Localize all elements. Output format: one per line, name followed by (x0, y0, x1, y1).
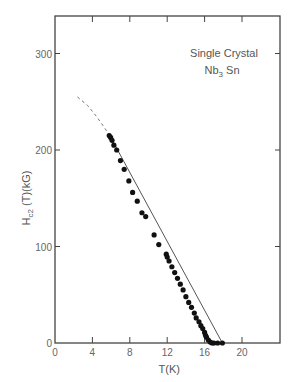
y-tick-label: 300 (35, 49, 52, 60)
data-point (126, 178, 131, 183)
x-tick-label: 8 (127, 347, 133, 358)
data-point (118, 158, 123, 163)
y-tick-label: 0 (46, 338, 52, 349)
data-point (111, 143, 116, 148)
data-point (172, 270, 177, 275)
data-point (178, 282, 183, 287)
data-point (152, 232, 157, 237)
x-axis-label: T(K) (159, 363, 180, 375)
fit-line (109, 135, 222, 343)
annotation-title: Single Crystal (190, 47, 258, 59)
data-point (139, 210, 144, 215)
extrapolation-curve (77, 97, 109, 135)
data-point (130, 190, 135, 195)
data-point (180, 287, 185, 292)
x-tick-label: 16 (199, 347, 211, 358)
x-tick-label: 0 (52, 347, 58, 358)
chart: 0481216200100200300T(K)Hc2 (T)(kG)Single… (0, 0, 294, 382)
annotation-compound: Nb3 Sn (204, 64, 239, 79)
y-tick-label: 200 (35, 145, 52, 156)
y-axis-label: Hc2 (T)(kG) (20, 171, 35, 226)
y-tick-label: 100 (35, 242, 52, 253)
data-point (183, 294, 188, 299)
data-point (215, 340, 220, 345)
x-tick-label: 12 (162, 347, 174, 358)
plot-frame (55, 16, 280, 343)
data-point (114, 147, 119, 152)
data-point (192, 310, 197, 315)
data-point (156, 242, 161, 247)
x-tick-label: 4 (90, 347, 96, 358)
data-point (143, 214, 148, 219)
data-point (135, 199, 140, 204)
data-point (220, 340, 225, 345)
data-point (189, 305, 194, 310)
data-point (186, 300, 191, 305)
data-point (122, 167, 127, 172)
data-point (166, 258, 171, 263)
x-tick-label: 20 (236, 347, 248, 358)
data-point (109, 138, 114, 143)
data-point (169, 264, 174, 269)
data-point (175, 276, 180, 281)
